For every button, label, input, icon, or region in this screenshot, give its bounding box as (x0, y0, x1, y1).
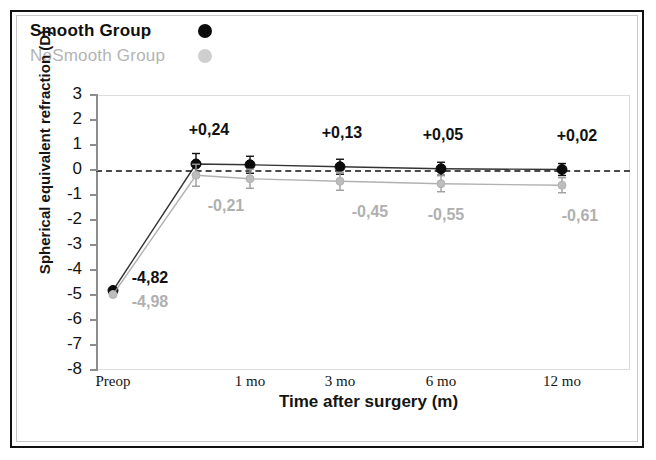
y-tick-mark (90, 94, 98, 96)
data-point-value-label: -0,61 (562, 207, 598, 225)
data-point-value-label: -4,82 (132, 269, 168, 287)
data-point-value-label: -4,98 (132, 293, 168, 311)
y-tick-label: -4 (52, 259, 82, 279)
data-point-value-label: -0,21 (208, 197, 244, 215)
y-tick-mark (90, 169, 98, 171)
y-tick-label: 3 (52, 84, 82, 104)
x-axis-title: Time after surgery (m) (96, 392, 641, 412)
x-tick-label: Preop (68, 373, 158, 390)
y-tick-label: 2 (52, 109, 82, 129)
y-tick-mark (90, 319, 98, 321)
y-tick-mark (90, 294, 98, 296)
data-point-value-label: +0,02 (557, 127, 597, 145)
y-tick-mark (90, 344, 98, 346)
y-tick-label: -1 (52, 184, 82, 204)
legend-item-smooth-group: Smooth Group (30, 18, 280, 43)
y-tick-label: 1 (52, 134, 82, 154)
legend-item-nosmooth-group: NoSmooth Group (30, 43, 280, 68)
chart-legend: Smooth Group NoSmooth Group (30, 18, 280, 68)
y-tick-label: -6 (52, 309, 82, 329)
data-point-value-label: +0,05 (423, 126, 463, 144)
y-tick-mark (90, 144, 98, 146)
legend-marker-filled-circle-icon (198, 49, 212, 63)
data-point-value-label: -0,55 (428, 206, 464, 224)
y-tick-label: -5 (52, 284, 82, 304)
legend-marker-filled-circle-icon (198, 24, 212, 38)
figure-root: Smooth Group NoSmooth Group Spherical eq… (0, 0, 656, 460)
x-tick-label: 12 mo (517, 373, 607, 390)
y-tick-label: -3 (52, 234, 82, 254)
y-axis-line (96, 95, 98, 370)
y-tick-mark (90, 369, 98, 371)
data-point-value-label: -0,45 (352, 203, 388, 221)
y-tick-mark (90, 219, 98, 221)
y-tick-label: 0 (52, 159, 82, 179)
y-tick-mark (90, 244, 98, 246)
y-tick-mark (90, 119, 98, 121)
zero-reference-line (96, 170, 630, 172)
y-tick-label: -2 (52, 209, 82, 229)
x-tick-label: 3 mo (295, 373, 385, 390)
y-tick-mark (90, 194, 98, 196)
data-point-value-label: +0,24 (189, 121, 229, 139)
y-tick-label: -7 (52, 334, 82, 354)
x-tick-label: 1 mo (205, 373, 295, 390)
data-point-value-label: +0,13 (322, 124, 362, 142)
y-tick-mark (90, 269, 98, 271)
plot-area (96, 95, 630, 370)
x-tick-label: 6 mo (396, 373, 486, 390)
